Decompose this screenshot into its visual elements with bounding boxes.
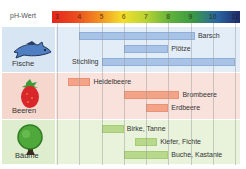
gridline — [191, 23, 192, 165]
tick-label: 9 — [189, 12, 193, 22]
range-bar — [124, 91, 180, 99]
gridline — [79, 23, 80, 165]
tick-label: 6 — [122, 12, 126, 22]
bar-label: Plötze — [171, 45, 190, 53]
range-bar — [102, 125, 124, 133]
gridline — [213, 23, 214, 165]
tick-label: 11 — [231, 12, 238, 22]
bar-label: Buche, Kastanie — [171, 151, 222, 159]
section-label: Beeren — [12, 106, 36, 115]
section-label: Bäume — [15, 151, 39, 160]
section-fische: FischeBarschPlötzeStichling — [2, 27, 240, 72]
gridline — [168, 23, 169, 165]
bar-label: Barsch — [198, 32, 220, 40]
section-label: Fische — [12, 59, 34, 68]
bar-label: Heidelbeere — [93, 78, 131, 86]
range-bar — [79, 32, 195, 40]
tick-label: 10 — [209, 12, 217, 22]
tick-label: 4 — [77, 12, 81, 22]
section-label-cell: Fische — [2, 27, 55, 72]
tick-label: 3 — [55, 12, 59, 22]
axis-title: pH-Wert — [10, 12, 36, 19]
tick-label: 8 — [166, 12, 170, 22]
gridline — [235, 23, 236, 165]
section-beeren: BeerenHeidelbeereBrombeereErdbeere — [2, 73, 240, 119]
gridline — [102, 23, 103, 165]
tick-label: 7 — [144, 12, 148, 22]
bar-label: Stichling — [72, 58, 98, 66]
bar-label: Erdbeere — [171, 104, 200, 112]
bar-label: Kiefer, Fichte — [160, 138, 201, 146]
section-label-cell: Beeren — [2, 73, 55, 119]
tick-label: 5 — [100, 12, 104, 22]
gridline — [124, 23, 125, 165]
range-bar — [146, 104, 168, 112]
label-column-divider — [55, 27, 56, 164]
section-label-cell: Bäume — [2, 120, 55, 164]
gridline — [57, 23, 58, 165]
section-bäume: BäumeBirke, TanneKiefer, FichteBuche, Ka… — [2, 120, 240, 164]
ph-range-chart: pH-Wert 34567891011 FischeBarschPlötzeSt… — [0, 0, 246, 169]
gridline — [146, 23, 147, 165]
